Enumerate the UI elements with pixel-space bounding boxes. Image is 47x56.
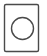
inner-circle: [12, 18, 34, 40]
icon-container[interactable]: [0, 0, 47, 56]
circle-in-rectangle-icon: [0, 0, 47, 56]
